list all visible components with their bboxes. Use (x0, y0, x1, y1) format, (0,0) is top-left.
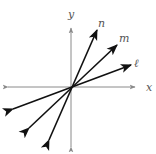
coordinate-diagram: x y n m ℓ (0, 0, 156, 154)
line-l-label: ℓ (134, 57, 139, 70)
x-axis-label: x (146, 81, 153, 94)
line-m-label: m (119, 32, 129, 45)
line-n-path (49, 30, 97, 140)
x-axis: x (8, 81, 153, 94)
y-axis-label: y (67, 8, 75, 21)
line-n-label: n (98, 17, 105, 30)
y-axis: y (67, 8, 75, 147)
line-m: m (29, 32, 129, 128)
